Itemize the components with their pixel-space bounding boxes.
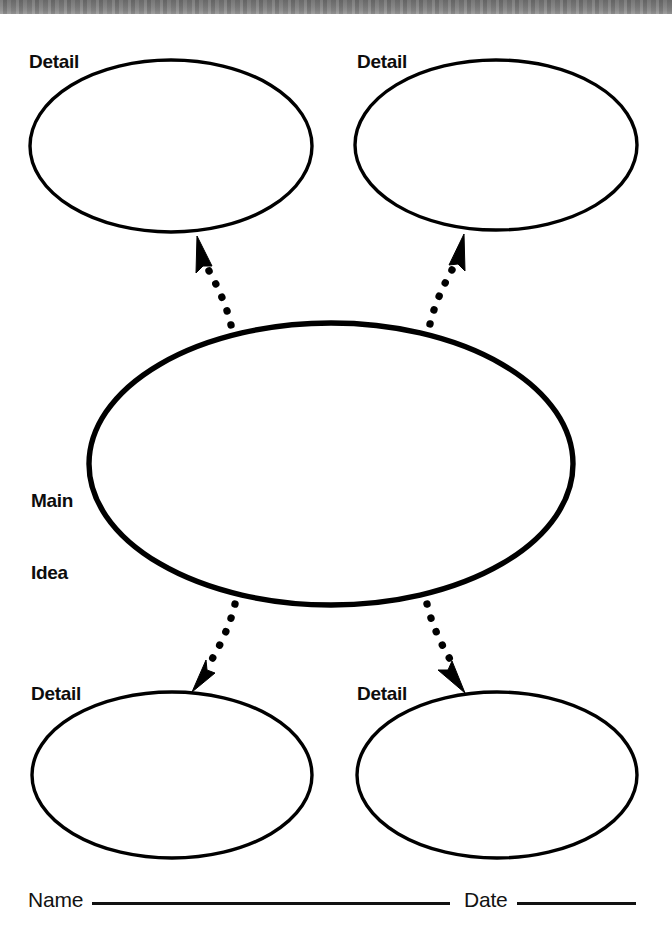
main-idea-label: Main Idea (31, 441, 73, 633)
main-idea-ellipse[interactable] (89, 323, 573, 605)
detail-ellipse-bottom-right[interactable] (357, 692, 637, 858)
name-label: Name (28, 888, 83, 912)
date-label: Date (464, 888, 508, 912)
detail-label-top-left: Detail (29, 50, 79, 73)
main-idea-label-line1: Main (31, 489, 73, 513)
connector-to-bottom-left (192, 604, 235, 692)
connector-to-bottom-right (427, 604, 465, 693)
worksheet-page: Detail Detail Detail Detail Main Idea Na… (0, 0, 672, 938)
name-input-rule[interactable] (92, 902, 450, 905)
detail-ellipse-bottom-left[interactable] (32, 692, 312, 858)
worksheet-footer: Name Date (0, 888, 672, 934)
detail-label-bottom-right: Detail (357, 682, 407, 705)
connector-to-top-left (196, 236, 231, 325)
detail-label-top-right: Detail (357, 50, 407, 73)
detail-ellipse-top-left[interactable] (30, 60, 312, 232)
date-input-rule[interactable] (517, 902, 636, 905)
connector-to-top-right (430, 234, 465, 324)
organizer-diagram (0, 0, 672, 938)
detail-ellipse-top-right[interactable] (355, 60, 637, 230)
name-field-group: Name (28, 888, 450, 912)
main-idea-label-line2: Idea (31, 561, 73, 585)
date-field-group: Date (464, 888, 636, 912)
detail-label-bottom-left: Detail (31, 682, 81, 705)
